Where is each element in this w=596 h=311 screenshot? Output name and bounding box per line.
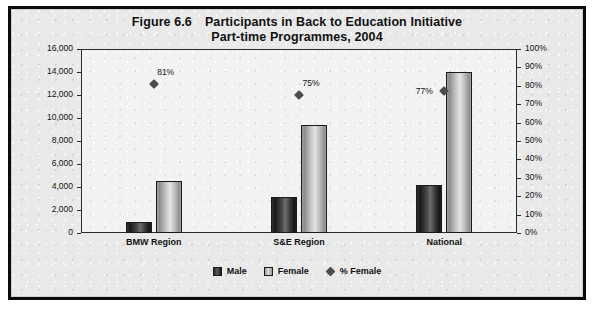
y-tick-right (517, 123, 521, 124)
y-tick-right (517, 159, 521, 160)
y-axis-label-right: 10% (525, 210, 542, 219)
y-axis-label-right: 100% (525, 44, 547, 53)
y-tick-left (77, 118, 81, 119)
figure-number: Figure 6.6 (132, 15, 192, 29)
x-axis-category-label: S&E Region (273, 238, 325, 247)
plot-wrapper: 02,0004,0006,0008,00010,00012,00014,0001… (81, 49, 517, 233)
y-tick-right (517, 49, 521, 50)
figure-frame: Figure 6.6Participants in Back to Educat… (8, 6, 586, 300)
y-tick-left (77, 210, 81, 211)
y-tick-left (77, 72, 81, 73)
chart-legend: Male Female % Female (11, 267, 583, 276)
y-tick-right (517, 178, 521, 179)
legend-label-female: Female (278, 267, 309, 276)
y-axis-label-left: 2,000 (52, 205, 73, 214)
y-axis-label-left: 6,000 (52, 159, 73, 168)
legend-item-female: Female (264, 267, 309, 276)
y-tick-right (517, 104, 521, 105)
x-axis-category-label: BMW Region (126, 238, 182, 247)
female-swatch-icon (264, 267, 273, 276)
chart-title-line-1: Figure 6.6Participants in Back to Educat… (11, 15, 583, 30)
percent-female-data-label: 77% (416, 87, 433, 96)
y-axis-label-right: 60% (525, 118, 542, 127)
y-tick-left (77, 187, 81, 188)
y-axis-label-right: 90% (525, 62, 542, 71)
y-axis-label-right: 30% (525, 173, 542, 182)
legend-label-pct-female: % Female (340, 267, 382, 276)
y-tick-right (517, 141, 521, 142)
y-axis-label-left: 4,000 (52, 182, 73, 191)
y-axis-label-left: 8,000 (52, 136, 73, 145)
y-tick-right (517, 233, 521, 234)
y-axis-label-left: 10,000 (47, 113, 73, 122)
y-tick-left (77, 95, 81, 96)
y-tick-right (517, 86, 521, 87)
y-tick-left (77, 233, 81, 234)
y-tick-right (517, 215, 521, 216)
bar-male (126, 222, 152, 234)
y-axis-label-right: 40% (525, 154, 542, 163)
y-tick-left (77, 141, 81, 142)
bar-female (446, 72, 472, 233)
diamond-marker-icon (325, 267, 335, 277)
bar-male (271, 197, 297, 233)
chart-title: Figure 6.6Participants in Back to Educat… (11, 15, 583, 45)
y-axis-label-right: 50% (525, 136, 542, 145)
y-axis-label-right: 0% (525, 228, 537, 237)
legend-item-male: Male (213, 267, 247, 276)
y-axis-label-left: 12,000 (47, 90, 73, 99)
y-tick-right (517, 67, 521, 68)
chart-title-text: Participants in Back to Education Initia… (205, 15, 462, 29)
x-axis-category-label: National (427, 238, 463, 247)
y-axis-label-right: 80% (525, 81, 542, 90)
y-tick-left (77, 49, 81, 50)
y-axis-label-left: 16,000 (47, 44, 73, 53)
legend-item-pct-female: % Female (326, 267, 382, 276)
bar-female (301, 125, 327, 233)
bar-male (416, 185, 442, 233)
bar-female (156, 181, 182, 233)
y-axis-label-left: 0 (68, 228, 73, 237)
percent-female-data-label: 81% (157, 68, 174, 77)
chart-title-line-2: Part-time Programmes, 2004 (11, 30, 583, 45)
y-tick-left (77, 164, 81, 165)
legend-label-male: Male (227, 267, 247, 276)
percent-female-data-label: 75% (302, 79, 319, 88)
y-axis-label-right: 70% (525, 99, 542, 108)
male-swatch-icon (213, 267, 222, 276)
y-tick-right (517, 196, 521, 197)
y-axis-label-left: 14,000 (47, 67, 73, 76)
y-axis-label-right: 20% (525, 191, 542, 200)
